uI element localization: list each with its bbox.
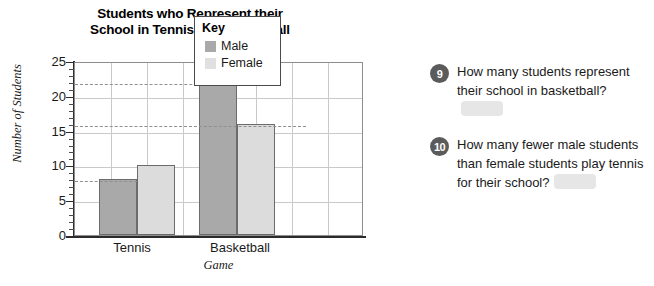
question-text: How many fewer male students than female… (457, 135, 645, 192)
y-tick-major-5 (66, 201, 74, 202)
x-tick-label-tennis: Tennis (92, 240, 172, 255)
legend-label-male: Male (221, 38, 248, 55)
question-number-badge: 9 (430, 64, 449, 83)
question-number-badge: 10 (430, 137, 449, 156)
bar-basketball-female (237, 124, 275, 235)
y-tick-minor-8 (69, 180, 74, 181)
question-9: 9 How many students represent their scho… (430, 62, 650, 119)
legend-swatch-male (205, 41, 216, 52)
chart-title: Students who Represent their School in T… (30, 6, 350, 38)
bar-tennis-female (137, 165, 175, 235)
y-tick-minor-4 (69, 208, 74, 209)
y-tick-minor-22 (69, 83, 74, 84)
y-tick-label-25: 25 (38, 54, 66, 69)
question-text: How many students represent their school… (457, 62, 645, 119)
chart-legend: Key Male Female (194, 16, 281, 86)
y-tick-minor-19 (69, 104, 74, 105)
y-tick-minor-17 (69, 118, 74, 119)
y-tick-minor-7 (69, 187, 74, 188)
answer-blank-10[interactable] (554, 174, 596, 189)
y-tick-major-0 (66, 236, 74, 237)
reference-line-8 (75, 181, 137, 182)
plot-area (74, 62, 363, 236)
bar-basketball-male (199, 82, 237, 235)
y-tick-major-25 (66, 62, 74, 63)
y-tick-minor-18 (69, 111, 74, 112)
vertical-gridline (292, 63, 293, 235)
legend-swatch-female (205, 58, 216, 69)
y-tick-label-15: 15 (38, 124, 66, 139)
legend-item-male: Male (202, 38, 280, 55)
question-10-prompt: How many fewer male students than female… (457, 137, 643, 190)
y-tick-minor-6 (69, 194, 74, 195)
y-tick-minor-12 (69, 152, 74, 153)
y-tick-label-0: 0 (38, 228, 66, 243)
y-tick-label-20: 20 (38, 89, 66, 104)
y-tick-major-20 (66, 97, 74, 98)
reference-line-16 (75, 126, 306, 127)
worksheet-page: Students who Represent their School in T… (0, 0, 654, 286)
y-tick-label-5: 5 (38, 193, 66, 208)
legend-label-female: Female (221, 55, 263, 72)
x-tick-label-basketball: Basketball (185, 240, 295, 255)
y-tick-major-10 (66, 166, 74, 167)
y-tick-label-10: 10 (38, 158, 66, 173)
y-tick-minor-3 (69, 215, 74, 216)
bar-tennis-male (99, 179, 137, 235)
y-tick-minor-2 (69, 222, 74, 223)
question-10: 10 How many fewer male students than fem… (430, 135, 650, 192)
y-axis-title: Number of Students (10, 49, 25, 179)
vertical-gridline (183, 63, 184, 235)
question-9-prompt: How many students represent their school… (457, 64, 630, 98)
questions-list: 9 How many students represent their scho… (430, 62, 650, 208)
chart-title-line-2: School in Tennis and Basketball (30, 22, 350, 38)
y-tick-minor-9 (69, 173, 74, 174)
y-tick-minor-13 (69, 146, 74, 147)
y-tick-major-15 (66, 132, 74, 133)
y-tick-minor-11 (69, 159, 74, 160)
x-axis-title: Game (74, 258, 363, 273)
bar-chart: Students who Represent their School in T… (0, 0, 400, 286)
y-tick-minor-24 (69, 69, 74, 70)
y-tick-minor-1 (69, 229, 74, 230)
legend-title: Key (202, 21, 280, 36)
legend-item-female: Female (202, 55, 280, 72)
chart-title-line-1: Students who Represent their (30, 6, 350, 22)
y-tick-minor-16 (69, 125, 74, 126)
y-tick-minor-14 (69, 139, 74, 140)
answer-blank-9[interactable] (461, 101, 503, 116)
vertical-gridline (328, 63, 329, 235)
x-axis-line (66, 236, 366, 238)
y-tick-minor-21 (69, 90, 74, 91)
y-tick-minor-23 (69, 76, 74, 77)
y-axis-tick-labels: 0510152025 (30, 0, 66, 286)
